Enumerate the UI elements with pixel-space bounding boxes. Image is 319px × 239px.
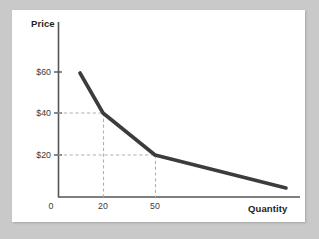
demand-curve xyxy=(80,73,286,188)
chart-figure: Price Quantity $60 $40 $20 0 20 50 xyxy=(0,0,319,239)
chart-plot-area xyxy=(0,0,319,239)
